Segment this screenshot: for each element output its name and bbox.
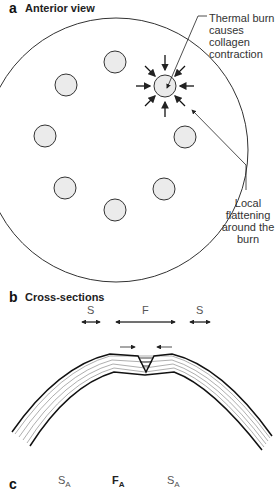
stroma-layers [15, 356, 270, 447]
label-s-right: S [196, 304, 203, 316]
label-sub: A [119, 480, 125, 489]
label-s-left: S [87, 304, 94, 316]
label-text: F [112, 474, 119, 486]
label-sub: A [65, 480, 70, 489]
label-fa: FA [112, 474, 125, 489]
label-sa-left: SA [58, 474, 71, 489]
cornea-surfaces [12, 354, 272, 450]
label-sa-right: SA [167, 474, 180, 489]
panel-b-letter: b [9, 289, 18, 305]
label-f: F [142, 304, 149, 316]
panel-c-letter: c [9, 476, 17, 492]
zone-arrows [82, 322, 210, 347]
label-sub: A [174, 480, 179, 489]
panel-b-title: Cross-sections [25, 291, 104, 303]
